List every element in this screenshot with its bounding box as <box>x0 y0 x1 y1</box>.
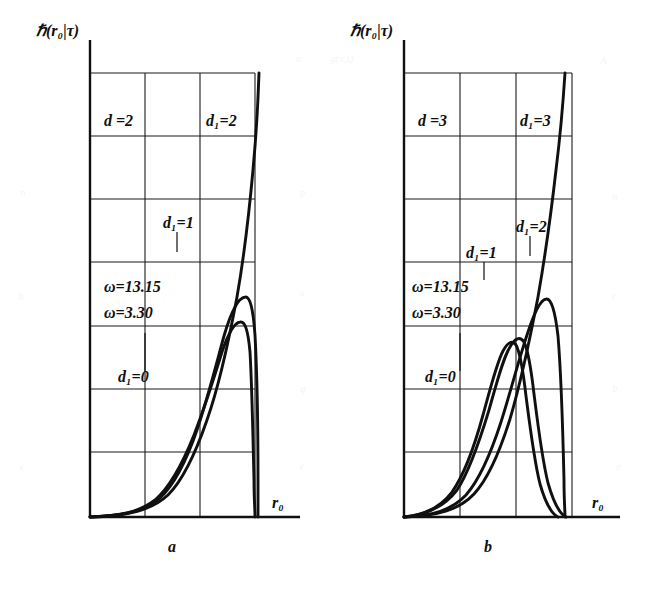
svg-text:a: a <box>296 52 302 64</box>
panel-a-d1-mid-label: d₁=1 <box>163 214 194 231</box>
panel-b-caption: b <box>484 538 492 555</box>
svg-text:c: c <box>20 460 25 472</box>
svg-text:A: A <box>599 54 607 66</box>
panel-a-d-label: d =2 <box>104 112 133 129</box>
panel-a-d1-top-label: d₁=2 <box>206 112 237 129</box>
svg-text:g(x,t): g(x,t) <box>330 52 354 65</box>
svg-text:q: q <box>300 382 306 394</box>
svg-text:h: h <box>18 290 24 302</box>
svg-text:p: p <box>299 186 306 198</box>
panel-b-d-label: d =3 <box>418 112 447 129</box>
svg-text:b: b <box>612 382 618 394</box>
figure-root: a g(x,t) A n p n h s t q b c r e <box>0 0 664 592</box>
panel-a-omega-2-label: ω=3.30 <box>104 304 153 321</box>
panel-b-d1-one-label: d₁=1 <box>466 244 497 261</box>
panel-a-y-axis-label: ℏ(r₀|τ) <box>36 22 79 40</box>
panel-a-omega-1-label: ω=13.15 <box>104 278 161 295</box>
panel-b-d1-top-label: d₁=3 <box>520 112 551 129</box>
svg-text:n: n <box>20 186 26 198</box>
panel-b-omega-1-label: ω=13.15 <box>412 278 469 295</box>
panel-b-y-axis-label: ℏ(r₀|τ) <box>350 22 393 40</box>
panel-a-d1-zero-label: d₁=0 <box>118 368 149 385</box>
svg-text:e: e <box>616 460 621 472</box>
figure-svg: a g(x,t) A n p n h s t q b c r e <box>0 0 664 592</box>
panel-a-x-axis-label: r₀ <box>272 494 284 511</box>
panel-b-d1-zero-label: d₁=0 <box>425 368 456 385</box>
panel-a-caption: a <box>168 538 176 555</box>
panel-b-x-axis-label: r₀ <box>592 494 604 511</box>
svg-text:s: s <box>300 286 304 298</box>
panel-b-omega-2-label: ω=3.30 <box>412 304 461 321</box>
svg-text:n: n <box>612 190 618 202</box>
panel-b-d1-two-label: d₁=2 <box>516 218 547 235</box>
svg-text:r: r <box>300 460 305 472</box>
